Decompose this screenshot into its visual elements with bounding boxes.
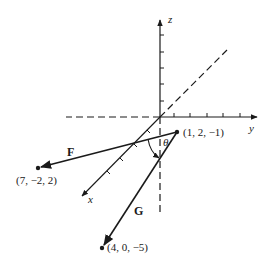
z-axis [160, 20, 164, 117]
vector-f [41, 132, 177, 167]
point-g-end-label: (4, 0, −5) [107, 242, 148, 253]
z-axis-label: z [168, 14, 172, 25]
vector-g [104, 132, 177, 245]
angle-theta-arc [148, 139, 159, 158]
y-axis-label: y [249, 123, 254, 134]
y-axis [160, 113, 257, 117]
diagram-canvas [0, 0, 269, 265]
vector-g-label: G [134, 205, 143, 217]
x-axis-label: x [88, 194, 93, 205]
point-f-end-label: (7, −2, 2) [16, 175, 57, 186]
x-axis [82, 117, 160, 196]
point-f-end-dot [36, 166, 40, 170]
point-origin-label: (1, 2, −1) [183, 127, 224, 138]
point-origin-dot [175, 130, 179, 134]
x-axis-ticks [107, 130, 150, 174]
angle-theta-label: θ [163, 137, 168, 148]
x-axis-negative [160, 50, 227, 117]
vector-f-label: F [67, 146, 74, 158]
point-g-end-dot [100, 246, 104, 250]
